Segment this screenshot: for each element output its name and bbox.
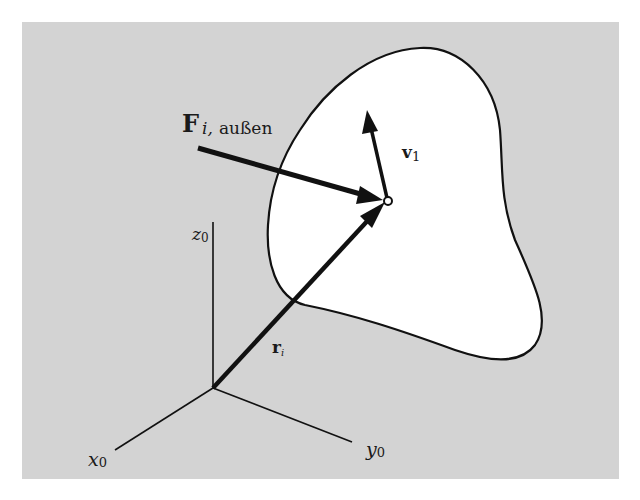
mass-point [384,197,392,205]
rigid-body-diagram: Fi,außen v1 ri z0 x0 y0 [0,0,640,500]
